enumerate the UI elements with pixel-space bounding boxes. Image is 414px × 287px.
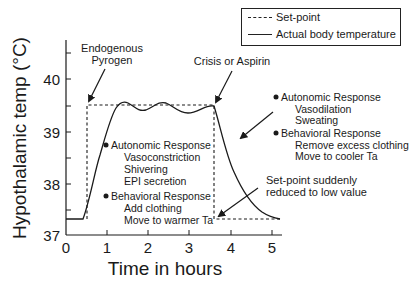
legend-label: Set-point bbox=[276, 11, 320, 23]
x-tick-5: 5 bbox=[268, 239, 276, 256]
solid-line-icon bbox=[248, 34, 272, 35]
legend-item-actual-temp: Actual body temperature bbox=[242, 26, 400, 43]
heat-loss-autonomic-item: Sweating bbox=[295, 114, 338, 126]
annotation-pyrogen-line2: Pyrogen bbox=[92, 54, 133, 66]
dashed-line-icon bbox=[248, 17, 272, 18]
y-tick-40: 40 bbox=[43, 71, 60, 88]
legend: Set-point Actual body temperature bbox=[241, 8, 401, 46]
bullet-icon bbox=[104, 143, 109, 148]
heat-loss-behavioral-item: Move to cooler Ta bbox=[295, 150, 378, 162]
y-tick-39: 39 bbox=[43, 124, 60, 141]
x-tick-3: 3 bbox=[185, 239, 193, 256]
annotation-setpoint-drop-line2: reduced to low value bbox=[266, 186, 367, 198]
heat-gain-autonomic-title: Autonomic Response bbox=[111, 139, 211, 151]
y-axis bbox=[66, 40, 71, 235]
x-axis bbox=[66, 230, 282, 235]
bullet-icon bbox=[274, 131, 279, 136]
crisis-arrow-icon bbox=[216, 71, 232, 102]
annotation-crisis: Crisis or Aspirin bbox=[194, 55, 270, 67]
pyrogen-arrow-icon bbox=[89, 69, 105, 101]
legend-item-set-point: Set-point bbox=[242, 9, 400, 26]
x-tick-2: 2 bbox=[144, 239, 152, 256]
x-tick-0: 0 bbox=[62, 239, 70, 256]
heat-gain-responses: Autonomic Response Vasoconstriction Shiv… bbox=[104, 139, 214, 226]
legend-label: Actual body temperature bbox=[276, 28, 396, 40]
heat-gain-autonomic-item: EPI secretion bbox=[124, 175, 187, 187]
heat-gain-behavioral-item: Move to warmer Ta bbox=[124, 214, 213, 226]
heat-gain-behavioral-title: Behavioral Response bbox=[111, 190, 211, 202]
y-tick-38: 38 bbox=[43, 176, 60, 193]
annotation-setpoint-drop-line1: Set-point suddenly bbox=[266, 174, 358, 186]
x-tick-1: 1 bbox=[103, 239, 111, 256]
heat-loss-autonomic-title: Autonomic Response bbox=[281, 91, 381, 103]
heat-gain-autonomic-item: Shivering bbox=[124, 163, 168, 175]
y-axis-title: Hypothalamic temp (°C) bbox=[9, 37, 30, 239]
y-tick-37: 37 bbox=[43, 227, 60, 244]
heat-loss-behavioral-title: Behavioral Response bbox=[281, 127, 381, 139]
heat-loss-responses: Autonomic Response Vasodilation Sweating… bbox=[274, 91, 409, 162]
heat-loss-arrow-icon bbox=[241, 112, 273, 138]
heat-gain-autonomic-item: Vasoconstriction bbox=[124, 151, 200, 163]
x-tick-4: 4 bbox=[227, 239, 235, 256]
heat-gain-behavioral-item: Add clothing bbox=[124, 202, 182, 214]
bullet-icon bbox=[274, 95, 279, 100]
x-axis-title: Time in hours bbox=[108, 258, 222, 279]
bullet-icon bbox=[104, 194, 109, 199]
annotation-pyrogen-line1: Endogenous bbox=[81, 42, 143, 54]
